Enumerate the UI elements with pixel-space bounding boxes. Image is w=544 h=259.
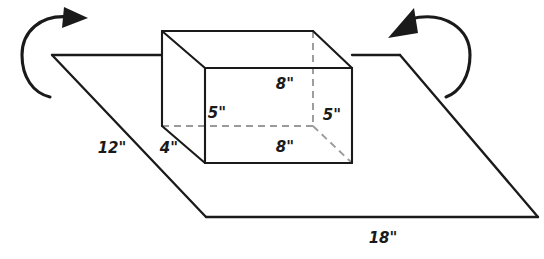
label-plane-front: 18" (369, 229, 398, 247)
label-box-height-right: 5" (323, 106, 341, 124)
label-box-width-top: 8" (276, 75, 294, 93)
rotate-arrow-cw-head (388, 8, 418, 38)
label-plane-left: 12" (98, 139, 127, 157)
box-solid (162, 31, 352, 163)
label-box-width-bottom: 8" (276, 138, 294, 156)
geometry-figure: 8" 8" 5" 5" 4" 12" 18" (0, 0, 544, 259)
rotate-arrow-ccw-head (62, 7, 88, 28)
label-box-depth: 4" (159, 139, 178, 157)
figure-canvas: 8" 8" 5" 5" 4" 12" 18" (0, 0, 544, 259)
label-box-height-left: 5" (208, 104, 226, 122)
